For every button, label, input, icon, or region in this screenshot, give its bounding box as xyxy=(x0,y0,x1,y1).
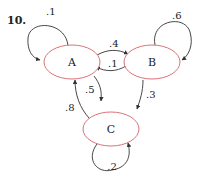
markov-chain-diagram: 10. .1 .6 .2 .4 .1 xyxy=(0,0,201,172)
edge-label-A-C: .5 xyxy=(85,84,95,95)
edge-label-A-B: .4 xyxy=(109,38,119,49)
edge-A-B: .4 xyxy=(97,38,128,55)
edge-label-B-C: .3 xyxy=(146,89,156,100)
edge-label-B-A: .1 xyxy=(108,58,118,69)
edge-label-B-B: .6 xyxy=(172,10,182,21)
edge-label-C-C: .2 xyxy=(107,161,117,172)
node-A: A xyxy=(44,45,100,79)
node-B: B xyxy=(124,45,180,79)
node-label-A: A xyxy=(67,56,77,69)
edge-label-A-A: .1 xyxy=(46,6,56,17)
node-C: C xyxy=(83,112,139,146)
node-label-B: B xyxy=(148,56,156,69)
node-label-C: C xyxy=(107,123,115,136)
edge-C-C: .2 xyxy=(92,143,129,172)
edge-A-C: .5 xyxy=(85,76,101,101)
edge-B-A: .1 xyxy=(96,58,126,71)
edge-label-C-A: .8 xyxy=(65,102,75,113)
problem-number: 10. xyxy=(7,14,26,27)
edge-B-C: .3 xyxy=(137,80,156,109)
